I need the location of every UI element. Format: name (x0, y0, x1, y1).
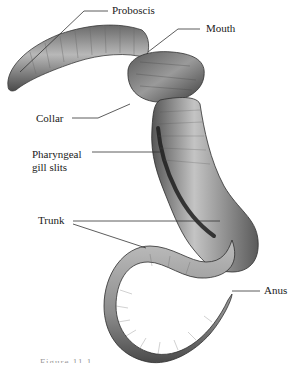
mouth-leader (148, 29, 200, 52)
label-pharyngeal-gill-slits: Pharyngeal gill slits (32, 148, 81, 174)
trunk-leader-lower (73, 224, 146, 248)
trunk-shape (152, 98, 259, 273)
collar-shape (128, 52, 204, 103)
label-anus: Anus (264, 284, 287, 297)
label-pharyngeal-line1: Pharyngeal (32, 148, 81, 160)
label-trunk: Trunk (38, 214, 65, 227)
label-collar: Collar (36, 112, 64, 125)
proboscis-shape (8, 25, 149, 91)
label-pharyngeal-line2: gill slits (32, 161, 67, 173)
acorn-worm-illustration (0, 0, 292, 365)
label-proboscis: Proboscis (112, 4, 155, 17)
collar-leader (72, 104, 130, 118)
acorn-worm-diagram: Proboscis Mouth Collar Pharyngeal gill s… (0, 0, 292, 365)
label-mouth: Mouth (206, 22, 235, 35)
